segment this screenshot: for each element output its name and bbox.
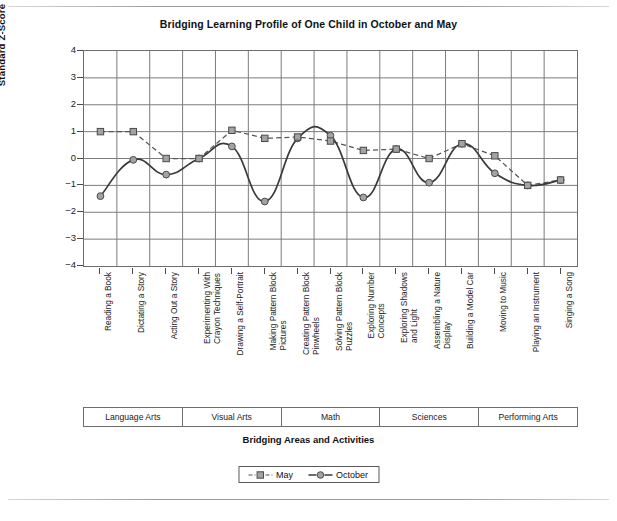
group-band-cell: Sciences	[380, 408, 479, 426]
legend-label: May	[276, 470, 293, 480]
x-tick-mark	[461, 268, 462, 274]
group-band-label: Math	[321, 412, 340, 422]
x-category-label: Making Pattern BlockPictures	[268, 272, 288, 350]
horizontal-gridlines	[84, 78, 577, 239]
x-tick-mark	[198, 268, 199, 274]
data-point-may	[229, 127, 235, 133]
data-point-october	[97, 193, 104, 200]
group-band-label: Performing Arts	[498, 412, 557, 422]
x-axis-label: Bridging Areas and Activities	[0, 434, 617, 445]
x-tick-mark	[362, 268, 363, 274]
data-point-october	[163, 171, 170, 178]
legend-label: October	[336, 470, 368, 480]
data-point-october	[130, 156, 137, 163]
circle-marker-icon	[307, 469, 333, 481]
y-tick-label: 4	[52, 44, 76, 55]
data-point-may	[492, 153, 498, 159]
group-band-label: Language Arts	[105, 412, 160, 422]
data-point-may	[130, 128, 136, 134]
data-point-october	[491, 170, 498, 177]
legend-item[interactable]: May	[247, 469, 293, 481]
x-tick-mark	[231, 268, 232, 274]
group-band-cell: Language Arts	[84, 408, 183, 426]
x-category-label: Moving to Music	[498, 272, 508, 332]
x-category-label: Building a Model Car	[465, 272, 475, 349]
y-tick-label: −1	[52, 178, 76, 189]
x-tick-mark	[560, 268, 561, 274]
x-category-label: Exploring NumberConcepts	[366, 272, 386, 338]
x-category-label: Reading a Book	[103, 272, 113, 331]
group-band-label: Visual Arts	[211, 412, 251, 422]
data-point-may	[557, 177, 563, 183]
group-band: Language ArtsVisual ArtsMathSciencesPerf…	[83, 407, 578, 427]
x-tick-mark	[264, 268, 265, 274]
data-point-may	[97, 128, 103, 134]
x-category-label: Singing a Song	[564, 272, 574, 328]
group-band-cell: Math	[282, 408, 381, 426]
data-point-october	[229, 143, 236, 150]
x-tick-mark	[297, 268, 298, 274]
data-point-may	[163, 155, 169, 161]
x-tick-mark	[527, 268, 528, 274]
x-tick-mark	[395, 268, 396, 274]
x-tick-mark	[494, 268, 495, 274]
data-point-may	[360, 147, 366, 153]
data-point-may	[426, 155, 432, 161]
y-tick-label: 1	[52, 125, 76, 136]
data-point-october	[426, 179, 433, 186]
plot-area	[83, 50, 578, 267]
y-axis-label: Standard Z-Score	[0, 0, 7, 125]
y-tick-label: 0	[52, 152, 76, 163]
x-category-label: Solving Pattern BlockPuzzles	[334, 272, 354, 351]
y-tick-label: −4	[52, 259, 76, 270]
group-band-cell: Visual Arts	[183, 408, 282, 426]
data-point-may	[459, 141, 465, 147]
x-category-label: Acting Out a Story	[169, 272, 179, 339]
square-marker-icon	[247, 469, 273, 481]
group-band-label: Sciences	[412, 412, 447, 422]
y-tick-label: −2	[52, 205, 76, 216]
chart-legend: MayOctober	[238, 466, 379, 483]
x-tick-mark	[165, 268, 166, 274]
legend-item[interactable]: October	[307, 469, 368, 481]
data-point-may	[327, 138, 333, 144]
data-point-may	[262, 135, 268, 141]
x-category-label: Exploring Shadowsand Light	[399, 272, 419, 343]
x-category-label: Assembling a NatureDisplay	[432, 272, 452, 349]
x-tick-mark	[330, 268, 331, 274]
x-tick-mark	[99, 268, 100, 274]
data-point-may	[294, 134, 300, 140]
chart-container: Standard Z-Score 43210−1−2−3−4 Reading a…	[0, 0, 617, 521]
data-point-october	[261, 198, 268, 205]
y-tick-label: 2	[52, 98, 76, 109]
group-band-cell: Performing Arts	[479, 408, 577, 426]
y-tick-label: −3	[52, 232, 76, 243]
x-category-label: Creating Pattern BlockPinwheels	[301, 272, 321, 355]
chart-svg	[84, 51, 577, 266]
x-category-label: Playing an Instrument	[531, 272, 541, 352]
x-category-label: Dictating a Story	[136, 272, 146, 333]
x-tick-mark	[428, 268, 429, 274]
y-tick-label: 3	[52, 71, 76, 82]
x-tick-mark	[132, 268, 133, 274]
x-category-label: Drawing a Self-Portrait	[235, 272, 245, 355]
data-point-may	[196, 155, 202, 161]
data-point-may	[525, 182, 531, 188]
x-category-label: Experimenting WithCrayon Techniques	[202, 272, 222, 344]
data-point-may	[393, 146, 399, 152]
data-point-october	[360, 194, 367, 201]
